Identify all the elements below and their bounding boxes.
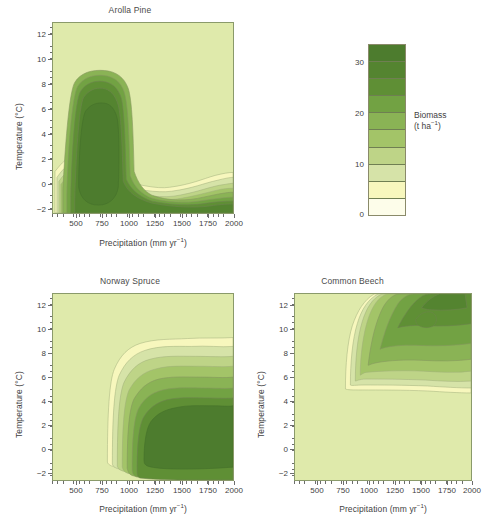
x-minor-tick <box>393 481 394 484</box>
y-minor-tick <box>50 414 53 415</box>
x-tick-mark <box>129 214 130 218</box>
x-minor-tick <box>164 481 165 484</box>
x-tick-label: 1250 <box>140 219 170 228</box>
x-minor-tick <box>218 214 219 217</box>
y-minor-tick <box>292 426 295 427</box>
y-axis-label-tail: C) <box>14 371 24 380</box>
x-minor-tick <box>383 481 384 484</box>
colorbar-band-2 <box>369 79 405 96</box>
x-minor-tick <box>89 214 90 217</box>
contour-surface <box>295 294 471 480</box>
x-minor-tick <box>218 481 219 484</box>
x-tick-mark <box>102 481 103 485</box>
y-minor-tick <box>50 52 53 53</box>
x-axis-label-exponent: −1 <box>177 502 184 509</box>
x-minor-tick <box>223 481 224 484</box>
y-tick-label: 4 <box>264 397 288 406</box>
x-tick-label: 750 <box>87 219 117 228</box>
x-minor-tick <box>154 481 155 484</box>
x-tick-label: 1250 <box>140 486 170 495</box>
colorbar-title: Biomass (t ha−1) <box>414 110 447 132</box>
y-tick-mark <box>290 305 294 306</box>
x-minor-tick <box>430 481 431 484</box>
y-minor-tick <box>292 475 295 476</box>
figure-root: Arolla Pine 12 10 <box>0 0 485 531</box>
degree-symbol: ° <box>14 112 24 116</box>
panel-title: Arolla Pine <box>0 5 260 15</box>
colorbar-units-prefix: (t ha <box>414 121 431 131</box>
x-minor-tick <box>378 481 379 484</box>
x-tick-mark <box>395 481 396 485</box>
y-tick-label: 0 <box>22 445 46 454</box>
y-minor-tick <box>292 402 295 403</box>
x-minor-tick <box>462 481 463 484</box>
y-tick-label: 6 <box>22 105 46 114</box>
y-minor-tick <box>292 365 295 366</box>
y-axis-label: Temperature (°C) <box>14 103 24 170</box>
x-minor-tick <box>100 481 101 484</box>
colorbar-band-3 <box>369 96 405 113</box>
colorbar-band-7 <box>369 165 405 182</box>
y-tick-label: −2 <box>22 205 46 214</box>
x-minor-tick <box>79 214 80 217</box>
y-minor-tick <box>50 438 53 439</box>
colorbar-band-0 <box>369 45 405 62</box>
x-tick-mark <box>182 214 183 218</box>
y-tick-label: 10 <box>22 55 46 64</box>
x-minor-tick <box>346 481 347 484</box>
contour-surface <box>53 294 233 480</box>
x-minor-tick <box>79 481 80 484</box>
x-minor-tick <box>180 214 181 217</box>
colorbar-band-8 <box>369 182 405 199</box>
y-axis-label-text: Temperature ( <box>256 384 266 438</box>
y-minor-tick <box>50 347 53 348</box>
x-minor-tick <box>100 214 101 217</box>
x-minor-tick <box>132 481 133 484</box>
x-minor-tick <box>197 481 198 484</box>
x-tick-mark <box>447 481 448 485</box>
y-axis-label-tail: C) <box>14 103 24 112</box>
x-tick-mark <box>182 481 183 485</box>
y-tick-label: 12 <box>264 301 288 310</box>
y-minor-tick <box>292 316 295 317</box>
x-minor-tick <box>304 481 305 484</box>
colorbar-units-exponent: −1 <box>431 119 438 126</box>
x-tick-label: 2000 <box>457 486 485 495</box>
y-minor-tick <box>50 58 53 59</box>
y-minor-tick <box>50 444 53 445</box>
x-minor-tick <box>299 481 300 484</box>
y-tick-label: 6 <box>22 373 46 382</box>
y-tick-mark <box>48 59 52 60</box>
y-tick-mark <box>48 134 52 135</box>
x-minor-tick <box>404 481 405 484</box>
x-minor-tick <box>138 214 139 217</box>
x-minor-tick <box>207 214 208 217</box>
y-tick-label: 6 <box>264 373 288 382</box>
colorbar-band-6 <box>369 148 405 165</box>
x-minor-tick <box>159 214 160 217</box>
x-minor-tick <box>159 481 160 484</box>
x-minor-tick <box>186 214 187 217</box>
y-minor-tick <box>50 377 53 378</box>
x-minor-tick <box>52 481 53 484</box>
y-minor-tick <box>292 396 295 397</box>
plot-area-arolla-pine <box>52 22 234 214</box>
y-minor-tick <box>50 96 53 97</box>
y-minor-tick <box>50 152 53 153</box>
x-minor-tick <box>138 481 139 484</box>
y-minor-tick <box>292 371 295 372</box>
panel-norway-spruce: Norway Spruce 12 10 8 6 4 <box>0 270 260 531</box>
x-tick-mark <box>102 214 103 218</box>
y-minor-tick <box>50 33 53 34</box>
y-tick-mark <box>48 473 52 474</box>
x-minor-tick <box>223 214 224 217</box>
x-tick-mark <box>155 214 156 218</box>
y-tick-label: 4 <box>22 130 46 139</box>
colorbar-tick-label: 30 <box>342 58 364 67</box>
x-minor-tick <box>57 481 58 484</box>
y-minor-tick <box>50 177 53 178</box>
y-minor-tick <box>50 450 53 451</box>
y-minor-tick <box>50 208 53 209</box>
y-tick-label: 8 <box>264 349 288 358</box>
y-minor-tick <box>50 365 53 366</box>
